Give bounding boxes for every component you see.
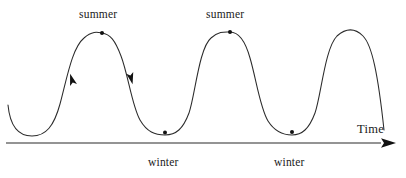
marker-dot-winter-trough-2 — [290, 130, 294, 134]
temperature-curve — [8, 30, 384, 136]
label-summer-1: summer — [79, 9, 117, 21]
label-winter-1: winter — [148, 157, 179, 169]
label-summer-2: summer — [206, 9, 244, 21]
seasonal-oscillation-figure: summer summer winter winter Time — [0, 0, 406, 178]
marker-dot-winter-trough-1 — [163, 131, 167, 135]
marker-dot-summer-peak-1 — [100, 31, 104, 35]
label-winter-2: winter — [274, 157, 305, 169]
diagram-canvas — [0, 0, 406, 178]
marker-dot-summer-peak-2 — [228, 30, 232, 34]
time-axis-label: Time — [357, 123, 384, 136]
time-axis-arrowhead — [381, 138, 396, 148]
flow-arrow-up-icon — [67, 73, 77, 86]
